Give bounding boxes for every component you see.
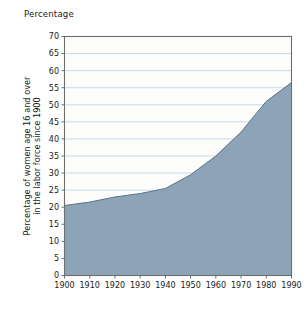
y-tick-label: 70: [49, 32, 59, 41]
x-axis-ticks: 1900191019201930194019501960197019801990: [54, 276, 301, 291]
y-tick-label: 25: [49, 186, 59, 195]
x-tick-label: 1900: [54, 281, 74, 290]
x-tick-label: 1960: [206, 281, 226, 290]
y-tick-label: 65: [49, 49, 59, 58]
x-tick-label: 1920: [105, 281, 125, 290]
x-tick-label: 1930: [130, 281, 150, 290]
y-axis-title-line: in the labor force since 1900: [32, 97, 42, 214]
x-tick-label: 1910: [80, 281, 100, 290]
y-tick-label: 5: [54, 254, 59, 263]
y-tick-label: 10: [49, 237, 59, 246]
y-axis-title-line: Percentage of women age 16 and over: [22, 76, 32, 235]
y-tick-label: 60: [49, 67, 59, 76]
x-tick-label: 1980: [256, 281, 276, 290]
y-tick-label: 55: [49, 84, 59, 93]
area-chart-plot: 0510152025303540455055606570 19001910192…: [0, 0, 307, 309]
y-axis-title: Percentage of women age 16 and overin th…: [22, 76, 42, 235]
y-tick-label: 0: [54, 271, 59, 280]
y-tick-label: 40: [49, 135, 59, 144]
y-tick-label: 15: [49, 220, 59, 229]
chart-figure: Percentage 0510152025303540455055606570 …: [0, 0, 307, 309]
y-tick-label: 20: [49, 203, 59, 212]
y-tick-label: 45: [49, 118, 59, 127]
x-tick-label: 1970: [231, 281, 251, 290]
y-tick-label: 30: [49, 169, 59, 178]
x-tick-label: 1990: [281, 281, 301, 290]
x-tick-label: 1940: [155, 281, 175, 290]
y-axis-ticks: 0510152025303540455055606570: [49, 32, 65, 280]
y-tick-label: 50: [49, 101, 59, 110]
y-tick-label: 35: [49, 152, 59, 161]
x-tick-label: 1950: [180, 281, 200, 290]
